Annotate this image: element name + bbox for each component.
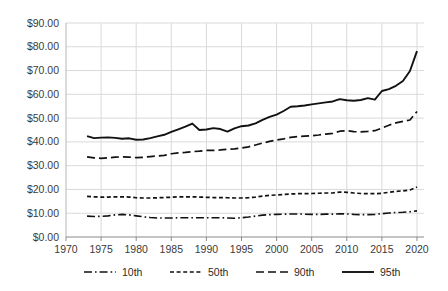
- x-axis-tick-label: 2000: [265, 243, 289, 255]
- x-axis-tick-label: 1975: [89, 243, 113, 255]
- y-axis-tick-label: $70.00: [27, 64, 59, 76]
- x-axis-tick-label: 2005: [300, 243, 324, 255]
- legend-label-50th: 50th: [208, 266, 229, 278]
- legend-label-90th: 90th: [294, 266, 315, 278]
- chart-container: $0.00$10.00$20.00$30.00$40.00$50.00$60.0…: [0, 0, 448, 291]
- axes: [66, 23, 424, 241]
- x-axis-tick-label: 1980: [125, 243, 149, 255]
- legend-label-10th: 10th: [122, 266, 143, 278]
- y-axis-tick-label: $30.00: [27, 159, 59, 171]
- x-axis-tick-label: 2020: [405, 243, 429, 255]
- y-axis-tick-labels: $0.00$10.00$20.00$30.00$40.00$50.00$60.0…: [27, 17, 59, 243]
- gridlines: [66, 23, 424, 237]
- y-axis-tick-label: $60.00: [27, 88, 59, 100]
- x-axis-tick-label: 1970: [54, 243, 78, 255]
- line-chart: $0.00$10.00$20.00$30.00$40.00$50.00$60.0…: [0, 0, 448, 291]
- y-axis-tick-label: $20.00: [27, 183, 59, 195]
- x-axis-tick-label: 2010: [335, 243, 359, 255]
- x-axis-tick-label: 1985: [160, 243, 184, 255]
- x-axis-tick-labels: 1970197519801985199019952000200520102015…: [54, 243, 428, 255]
- y-axis-tick-label: $90.00: [27, 17, 59, 29]
- x-axis-tick-label: 1995: [230, 243, 254, 255]
- y-axis-tick-label: $40.00: [27, 135, 59, 147]
- legend-label-95th: 95th: [380, 266, 401, 278]
- y-axis-tick-label: $10.00: [27, 207, 59, 219]
- x-axis-tick-label: 1990: [195, 243, 219, 255]
- x-axis-tick-label: 2015: [370, 243, 394, 255]
- chart-legend: 10th50th90th95th: [84, 266, 401, 278]
- y-axis-tick-label: $50.00: [27, 112, 59, 124]
- y-axis-tick-label: $0.00: [33, 231, 59, 243]
- y-axis-tick-label: $80.00: [27, 40, 59, 52]
